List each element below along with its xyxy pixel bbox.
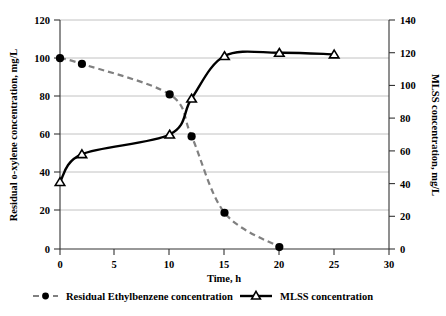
legend-marker-triangle-icon: [252, 291, 261, 299]
data-point-circle: [188, 132, 196, 140]
data-point-triangle: [55, 178, 65, 186]
chart-figure: 120 100 80 60 40 20 0 Residual o-xylene …: [0, 0, 446, 316]
data-point-circle: [220, 209, 228, 217]
left-tick-label: 120: [34, 15, 50, 26]
legend-label-mlss: MLSS concentration: [280, 291, 373, 302]
gridlines: [60, 20, 389, 210]
right-tick-label: 80: [400, 113, 411, 124]
left-tick-label: 40: [40, 167, 51, 178]
left-tick-label: 60: [40, 129, 51, 140]
right-tick-label: 20: [400, 211, 411, 222]
right-tick-label: 100: [400, 80, 416, 91]
right-axis-title: MLSS concentration, mg/L: [430, 74, 441, 196]
left-tick-label: 20: [40, 205, 51, 216]
x-axis-title: Time, h: [207, 273, 241, 284]
right-tick-label: 40: [400, 179, 411, 190]
data-point-circle: [275, 243, 283, 251]
right-tick-label: 120: [400, 48, 416, 59]
x-tick-label: 30: [384, 259, 395, 270]
right-tick-label: 60: [400, 146, 411, 157]
bottom-axis: 0 5 10 15 20 25 30 Time, h: [57, 249, 394, 284]
left-tick-label: 100: [34, 53, 50, 64]
chart-legend: Residual Ethylbenzene concentration MLSS…: [33, 291, 373, 302]
right-tick-label: 0: [400, 244, 405, 255]
left-axis: 120 100 80 60 40 20 0 Residual o-xylene …: [8, 15, 60, 255]
data-point-circle: [78, 60, 86, 68]
right-tick-label: 140: [400, 15, 416, 26]
legend-marker-circle-icon: [42, 293, 49, 300]
x-tick-label: 15: [219, 259, 230, 270]
left-tick-label: 0: [45, 244, 50, 255]
chart-canvas: 120 100 80 60 40 20 0 Residual o-xylene …: [0, 0, 446, 316]
series-line-mlss: [60, 52, 334, 182]
legend-label-ethylbenzene: Residual Ethylbenzene concentration: [66, 291, 233, 302]
x-tick-label: 10: [164, 259, 175, 270]
left-axis-title: Residual o-xylene concentration, mg/L: [8, 49, 19, 222]
x-tick-label: 25: [329, 259, 340, 270]
x-tick-label: 0: [57, 259, 62, 270]
data-point-circle: [166, 90, 174, 98]
x-tick-label: 5: [111, 259, 116, 270]
right-axis: 140 120 100 80 60 40 20 0 MLSS concentra…: [389, 15, 441, 255]
series-layer: [55, 48, 339, 251]
left-tick-label: 80: [40, 91, 51, 102]
data-point-circle: [56, 54, 64, 62]
series-line-ethylbenzene: [60, 58, 279, 247]
x-tick-label: 20: [274, 259, 285, 270]
